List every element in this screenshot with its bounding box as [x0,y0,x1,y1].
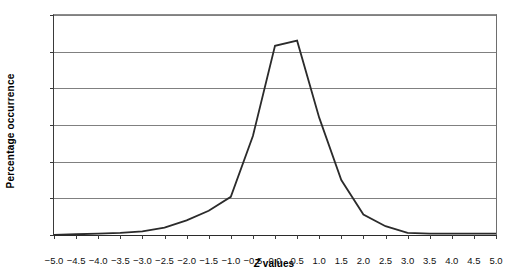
chart-container: Percentage occurrence Z values 0%5%10%15… [0,0,514,278]
x-axis-tick [363,235,364,239]
x-axis-tick [430,235,431,239]
x-axis-tick [98,235,99,239]
x-axis-tick [142,235,143,239]
x-axis-tick [386,235,387,239]
x-axis-tick [275,235,276,239]
x-axis-tick-label: 5.0 [476,255,514,266]
x-axis-tick [165,235,166,239]
x-axis-tick [209,235,210,239]
x-axis-tick [120,235,121,239]
x-axis-tick [319,235,320,239]
data-series-line [54,15,496,235]
x-axis-tick [253,235,254,239]
x-axis-tick [341,235,342,239]
x-axis-tick [297,235,298,239]
y-axis-title: Percentage occurrence [2,14,20,248]
x-axis-tick [474,235,475,239]
x-axis-tick [231,235,232,239]
x-axis-tick [408,235,409,239]
x-axis-tick [452,235,453,239]
x-axis-tick [187,235,188,239]
plot-area: 0%5%10%15%20%25%30% −5.0−4.5−4.0−3.5−3.0… [53,14,497,236]
x-axis-tick [496,235,497,239]
x-axis-tick [76,235,77,239]
